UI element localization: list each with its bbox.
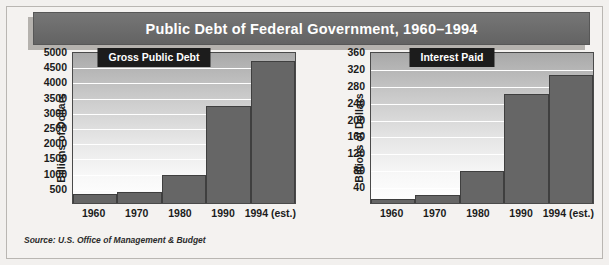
y-tick-label: 2500	[44, 122, 67, 134]
x-tick-label: 1990	[201, 207, 244, 219]
x-tick-label: 1994 (est.)	[543, 207, 594, 219]
x-tick-label: 1980	[158, 207, 201, 219]
y-tick-label: 3500	[44, 92, 67, 104]
bar-slot	[73, 53, 117, 203]
y-tick-label: 40	[353, 181, 365, 193]
chart-figure: Public Debt of Federal Government, 1960–…	[0, 0, 609, 265]
bar-slot	[162, 53, 206, 203]
bar-1994-est-	[549, 75, 593, 203]
x-tick-label: 1970	[413, 207, 456, 219]
bar-slot	[460, 53, 504, 203]
y-tick-label: 2000	[44, 137, 67, 149]
y-tick-label: 120	[347, 147, 365, 159]
bars-left	[73, 53, 295, 203]
panel-gross-public-debt: Billions of Dollars 50010001500200025003…	[12, 52, 296, 224]
bar-slot	[117, 53, 161, 203]
y-tick-label: 240	[347, 97, 365, 109]
bar-slot	[371, 53, 415, 203]
x-axis-labels-right: 19601970198019901994 (est.)	[370, 207, 594, 219]
x-tick-label: 1990	[499, 207, 542, 219]
y-tick-label: 4000	[44, 76, 67, 88]
bar-slot	[206, 53, 250, 203]
bar-slot	[549, 53, 593, 203]
y-axis-ticks-left: 500100015002000250030003500400045005000	[36, 52, 70, 204]
panel-title-right: Interest Paid	[409, 48, 494, 67]
x-tick-label: 1994 (est.)	[245, 207, 296, 219]
panel-title-left: Gross Public Debt	[97, 48, 210, 67]
y-axis-ticks-right: 4080120160200240280320360	[334, 52, 368, 204]
bar-1994-est-	[251, 61, 295, 203]
x-tick-label: 1970	[115, 207, 158, 219]
panels-container: Billions of Dollars 50010001500200025003…	[12, 52, 597, 224]
y-tick-label: 3000	[44, 107, 67, 119]
bar-slot	[504, 53, 548, 203]
bar-1980	[162, 175, 206, 203]
bar-1960	[73, 194, 117, 203]
y-tick-label: 1500	[44, 152, 67, 164]
x-axis-labels-left: 19601970198019901994 (est.)	[72, 207, 296, 219]
x-tick-label: 1960	[72, 207, 115, 219]
y-tick-label: 360	[347, 46, 365, 58]
x-tick-label: 1980	[456, 207, 499, 219]
y-tick-label: 1000	[44, 168, 67, 180]
y-tick-label: 4500	[44, 61, 67, 73]
y-tick-label: 80	[353, 164, 365, 176]
bar-1980	[460, 171, 504, 203]
x-tick-label: 1960	[370, 207, 413, 219]
bar-1990	[206, 106, 250, 203]
bar-1970	[117, 192, 161, 203]
y-tick-label: 500	[49, 183, 67, 195]
bar-1990	[504, 94, 548, 203]
bar-1970	[415, 195, 459, 203]
title-banner: Public Debt of Federal Government, 1960–…	[33, 12, 590, 45]
y-tick-label: 160	[347, 130, 365, 142]
bar-slot	[251, 53, 295, 203]
plot-area-left	[72, 52, 296, 204]
plot-area-right	[370, 52, 594, 204]
y-tick-label: 320	[347, 63, 365, 75]
source-note: Source: U.S. Office of Management & Budg…	[24, 235, 206, 245]
bar-slot	[415, 53, 459, 203]
panel-interest-paid: Billions of Dollars 40801201602002402803…	[310, 52, 594, 224]
bars-right	[371, 53, 593, 203]
y-tick-label: 5000	[44, 46, 67, 58]
y-tick-label: 280	[347, 80, 365, 92]
y-tick-label: 200	[347, 114, 365, 126]
bar-1960	[371, 199, 415, 203]
page-title: Public Debt of Federal Government, 1960–…	[146, 21, 478, 37]
